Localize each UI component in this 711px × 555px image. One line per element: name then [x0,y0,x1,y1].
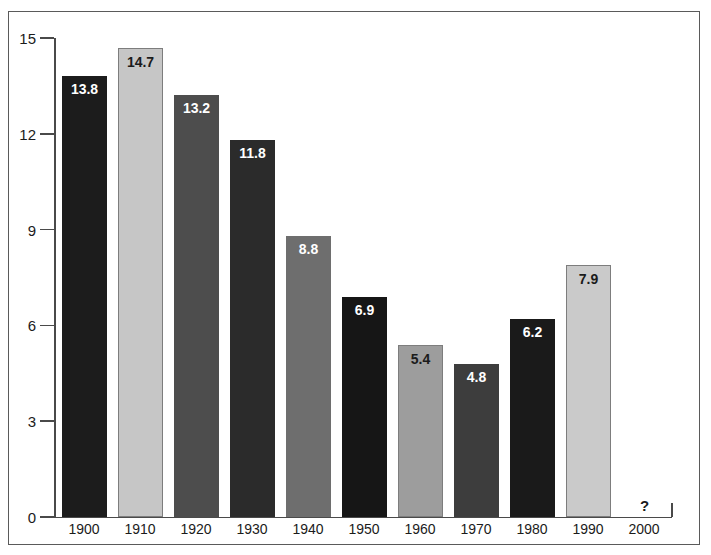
bar: 6.2 [510,319,555,517]
bar: 14.7 [118,48,163,517]
y-axis-tick [40,37,54,39]
bar-value-label: 14.7 [119,55,162,69]
bar-value-label: 8.8 [286,242,331,256]
bar-value-label: 5.4 [399,352,442,366]
bar-value-label: 6.9 [342,303,387,317]
y-axis-tick-label: 6 [6,318,36,333]
y-axis-tick-label: 15 [6,31,36,46]
x-axis-tick-label: 1940 [278,522,338,536]
x-axis-tick-label: 1980 [502,522,562,536]
bar: 7.9 [566,265,611,517]
bar: 13.2 [174,95,219,517]
x-axis-tick-label: 1930 [222,522,282,536]
bar-chart: 03691215 13.814.713.211.88.86.95.44.86.2… [0,0,711,555]
y-axis-tick [40,325,54,327]
y-axis-tick [40,420,54,422]
y-axis-tick [40,516,54,518]
x-axis-tick-label: 1970 [446,522,506,536]
bar: 11.8 [230,140,275,517]
y-axis-tick [40,229,54,231]
y-axis-line [54,38,56,518]
bar-value-label: 7.9 [567,272,610,286]
x-axis-tick-label: 1990 [558,522,618,536]
y-axis-tick [40,133,54,135]
y-axis-tick-label: 9 [6,223,36,238]
y-axis-tick-label: 3 [6,414,36,429]
bar: 5.4 [398,345,443,517]
x-axis-tick-label: 1910 [110,522,170,536]
y-axis-tick-label: 0 [6,510,36,525]
x-axis-tick-label: 1920 [166,522,226,536]
bar: 6.9 [342,297,387,517]
x-axis-tick-label: 2000 [614,522,674,536]
x-axis-tick-label: 1900 [54,522,114,536]
y-axis-tick-label: 12 [6,127,36,142]
bar-value-label: 6.2 [510,325,555,339]
bar: 4.8 [454,364,499,517]
bar-value-label: 11.8 [230,146,275,160]
unknown-value-question-mark: ? [622,498,667,513]
bar-value-label: 13.2 [174,101,219,115]
x-axis-endcap [671,503,673,517]
bar-value-label: 13.8 [62,82,107,96]
bar: 8.8 [286,236,331,517]
bar: 13.8 [62,76,107,517]
bar-value-label: 4.8 [454,370,499,384]
x-axis-tick-label: 1950 [334,522,394,536]
x-axis-tick-label: 1960 [390,522,450,536]
